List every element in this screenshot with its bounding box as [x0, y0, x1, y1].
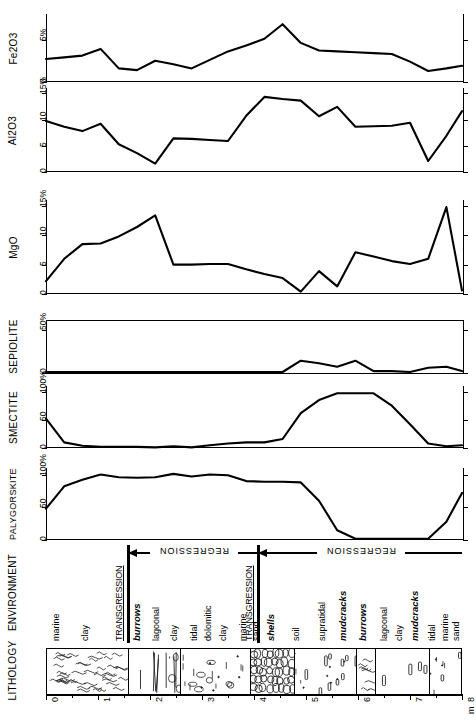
y-tick-right: [463, 265, 468, 266]
scale-tick-minor: [436, 694, 437, 698]
lithology-unit: [356, 649, 374, 695]
environment-label: clay: [169, 625, 179, 641]
scale-tick-label: 0: [50, 697, 60, 702]
y-tick-right: [463, 93, 468, 94]
scale-tick-label: 4: [258, 697, 268, 702]
environment-label: supratidal: [317, 602, 327, 641]
y-tick-label: 15%: [38, 190, 48, 207]
regression-arrow-head: [128, 549, 137, 557]
baseline-axis: [47, 539, 463, 540]
y-tick-right: [463, 448, 468, 449]
scale-tick-major: [46, 694, 47, 700]
environment-label: mudcracks: [409, 591, 420, 641]
transgression-bar: [127, 545, 130, 643]
environment-label: shells: [265, 614, 276, 641]
lithology-unit: [250, 649, 294, 695]
y-tick-right: [463, 507, 468, 508]
panel-title-mgo: MgO: [0, 200, 26, 294]
panel-title-al2o3: Al2O3: [0, 88, 26, 172]
scale-tick-minor: [176, 694, 177, 698]
lithology-pattern-mudcracked-sandy: [429, 649, 462, 695]
lithology-boundary: [375, 649, 376, 695]
lithology-pattern-squiggly-clay: [47, 649, 128, 695]
lithology-column: [46, 648, 462, 696]
y-tick-right: [463, 294, 468, 295]
scale-tick-minor: [280, 694, 281, 698]
panel-title-sepiolite: SEPIOLITE: [0, 320, 26, 372]
lithology-pattern-brecciated-nodular: [250, 649, 294, 695]
y-tick-right: [463, 235, 468, 236]
lithology-boundary: [429, 649, 430, 695]
baseline-axis: [47, 171, 463, 172]
transgression-label: TRANSGRESSION: [114, 566, 124, 641]
scale-tick-label: 6: [362, 697, 372, 702]
y-tick-label: 10: [38, 227, 48, 236]
plot-area-mgo: [46, 200, 464, 294]
y-tick-label: 50%: [38, 313, 48, 330]
lithology-unit: [294, 649, 356, 695]
y-tick-right: [463, 120, 468, 121]
lithology-unit: [375, 649, 430, 695]
environment-label: burrows: [357, 604, 368, 641]
regression-arrow-head: [258, 549, 267, 557]
y-tick-right: [463, 475, 468, 476]
regression-label: REGRESSION: [317, 546, 405, 556]
baseline-axis: [47, 447, 463, 448]
y-tick-label: 0: [38, 444, 48, 449]
lithology-pattern-sparse-blocky: [375, 649, 430, 695]
y-tick-label: 0: [38, 168, 48, 173]
transgression-label: TRANSGRESSION: [244, 566, 254, 641]
lithology-unit: [180, 649, 250, 695]
panel-title-fe2o3: Fe2O3: [0, 14, 26, 82]
scale-tick-label: 2: [154, 697, 164, 702]
lithology-boundary: [294, 649, 295, 695]
y-tick-label: 0: [38, 290, 48, 295]
scale-tick-minor: [332, 694, 333, 698]
scale-tick-minor: [72, 694, 73, 698]
scale-tick-major: [150, 694, 151, 700]
lithology-title: LITHOLOGY: [0, 645, 26, 695]
y-tick-right: [463, 392, 468, 393]
y-tick-label: 10: [38, 111, 48, 120]
scale-tick-label: 7: [414, 697, 424, 702]
environment-label: soil: [291, 627, 301, 641]
y-tick-label: 100%: [38, 454, 48, 476]
depth-scale: 012345678m: [46, 694, 462, 724]
y-tick-right: [463, 330, 468, 331]
plot-area-palygorskite: [46, 468, 464, 540]
y-tick-label: 50: [38, 499, 48, 508]
scale-tick-label: 3: [206, 697, 216, 702]
environment-label: clay: [80, 625, 90, 641]
panel-title-label: Fe2O3: [8, 32, 19, 64]
lithology-boundary: [180, 649, 181, 695]
environment-label: lagoonal: [379, 607, 389, 641]
y-tick-label: 15%: [38, 77, 48, 94]
scale-tick-major: [462, 694, 463, 700]
scale-tick-minor: [124, 694, 125, 698]
panel-title-label: MgO: [7, 236, 18, 259]
scale-tick-minor: [228, 694, 229, 698]
y-tick-right: [463, 172, 468, 173]
y-tick-right: [463, 40, 468, 41]
panel-title-label: SMECTITE: [8, 391, 19, 444]
scale-tick-label: 8: [466, 697, 476, 702]
scale-tick-major: [410, 694, 411, 700]
panel-title-smectite: SMECTITE: [0, 386, 26, 448]
environment-label: clay: [394, 625, 404, 641]
scale-tick-label: 1: [102, 697, 112, 702]
environment-label: clay: [218, 625, 228, 641]
scale-tick-major: [254, 694, 255, 700]
environment-label: tidal: [189, 624, 199, 641]
environment-label: sand: [451, 621, 461, 641]
lithology-unit: [128, 649, 180, 695]
plot-area-sepiolite: [46, 320, 464, 374]
transgression-bar: [257, 545, 260, 643]
scale-tick-major: [358, 694, 359, 700]
scale-tick-major: [306, 694, 307, 700]
lithology-boundary: [250, 649, 251, 695]
lithology-pattern-squiggly-clay: [356, 649, 374, 695]
lithology-unit: [429, 649, 462, 695]
lithology-pattern-burrowed-mottled: [128, 649, 180, 695]
lithology-unit: [47, 649, 128, 695]
plot-area-al2o3: [46, 88, 464, 172]
